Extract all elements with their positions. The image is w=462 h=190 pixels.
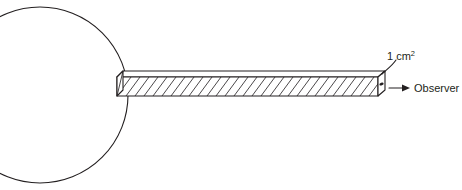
observer-arrow-head [402, 85, 410, 92]
observer-label: Observer [414, 82, 460, 94]
area-leader-path [382, 60, 396, 74]
sphere-circle [0, 7, 128, 183]
figure-root: 1 cm2 Observer [0, 0, 462, 190]
area-label: 1 cm2 [387, 49, 415, 62]
sphere-shape [0, 7, 128, 183]
area-label-value: 1 cm [387, 50, 411, 62]
area-label-exponent: 2 [411, 49, 415, 58]
observer-arrow [389, 85, 410, 92]
beam-front-face [108, 77, 383, 96]
diagram-canvas: 1 cm2 Observer [0, 0, 462, 190]
beam-top-face-polygon [117, 71, 385, 77]
beam-top-face [117, 71, 385, 77]
area-leader-line [382, 60, 396, 74]
